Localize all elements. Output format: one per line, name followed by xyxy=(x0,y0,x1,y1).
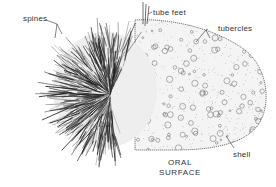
label-tubercles: tubercles xyxy=(218,25,252,33)
label-tube-feet: tube feet xyxy=(153,9,186,17)
label-shell: shell xyxy=(233,151,250,159)
label-oral-surface-line1: ORAL xyxy=(165,159,195,167)
label-spines: spines xyxy=(23,15,47,23)
label-oral-surface-line2: SURFACE xyxy=(157,169,203,177)
